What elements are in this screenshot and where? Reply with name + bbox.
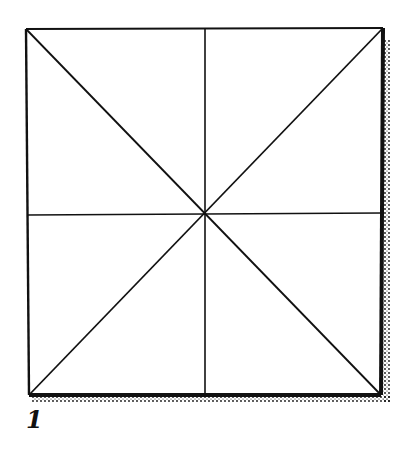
right-edge	[381, 28, 383, 395]
diagonal-tl-br	[26, 29, 381, 395]
left-edge	[26, 29, 29, 395]
figure-number: 1	[26, 405, 43, 434]
square-diagram	[0, 0, 411, 458]
horizontal-midline	[27, 213, 382, 215]
diagonal-tr-bl	[29, 28, 383, 395]
